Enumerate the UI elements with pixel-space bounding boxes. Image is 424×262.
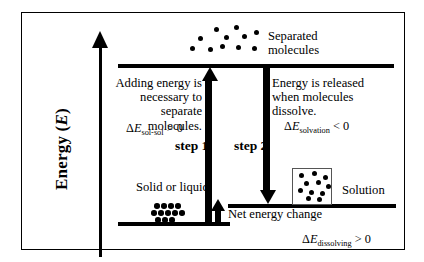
relation: > 0 xyxy=(352,232,371,246)
relation: < 0 xyxy=(330,119,349,133)
energy-released-paragraph: Energy is released when molecules dissol… xyxy=(272,76,380,119)
subscript: dissolving xyxy=(317,239,351,248)
molecule-dot xyxy=(190,46,195,51)
molecule-dot xyxy=(312,171,317,176)
relation: > 0 xyxy=(164,121,183,135)
molecule-dot xyxy=(306,196,311,201)
molecule-dot xyxy=(316,180,321,185)
step-1-caption: step 1 xyxy=(175,138,208,154)
solution-label: Solution xyxy=(342,183,385,197)
molecule-dot xyxy=(220,44,225,49)
molecule-dot xyxy=(214,27,219,32)
step-2-arrow-head-icon xyxy=(260,190,276,204)
molecule-dot xyxy=(320,191,325,196)
separated-molecules-label: Separated molecules xyxy=(268,29,319,57)
axis-label-symbol: E xyxy=(52,114,71,126)
delta-e-dissolving-equation: ΔEdissolving > 0 xyxy=(302,232,371,248)
molecule-dot xyxy=(169,217,175,223)
molecule-dot xyxy=(323,175,328,180)
molecule-dot xyxy=(161,203,167,209)
delta-symbol: Δ xyxy=(126,121,134,135)
delta-symbol: Δ xyxy=(302,232,310,246)
solution-dots-box xyxy=(292,168,332,205)
net-energy-arrow-shaft xyxy=(215,211,221,225)
molecule-dot xyxy=(198,36,203,41)
molecule-dot xyxy=(154,203,160,209)
molecule-dot xyxy=(172,210,178,216)
molecule-dot xyxy=(299,173,304,178)
molecule-dot xyxy=(242,34,247,39)
solid-or-liquid-label: Solid or liquid xyxy=(136,180,209,194)
step-1-arrow-head-icon xyxy=(202,67,218,81)
step-2-caption: step 2 xyxy=(234,138,267,154)
molecule-dot xyxy=(234,25,239,30)
delta-symbol: Δ xyxy=(284,119,292,133)
molecule-dot xyxy=(224,35,229,40)
delta-e-solvation-equation: ΔEsolvation < 0 xyxy=(284,119,349,135)
net-energy-change-label: Net energy change xyxy=(228,207,322,221)
molecule-dot xyxy=(155,217,161,223)
separated-label-line2: molecules xyxy=(268,43,319,57)
molecule-dot xyxy=(309,190,314,195)
molecule-dot xyxy=(151,210,157,216)
molecule-dot xyxy=(208,47,213,52)
diagram-frame: Energy (E) Separated molecules step 1 st… xyxy=(21,12,405,250)
molecule-dot xyxy=(304,181,309,186)
subscript: sol-sol xyxy=(141,128,163,137)
energy-diagram-figure: Energy (E) Separated molecules step 1 st… xyxy=(0,0,424,262)
molecule-dot xyxy=(175,203,181,209)
molecule-dot xyxy=(298,188,303,193)
molecule-dot xyxy=(165,210,171,216)
molecule-dot xyxy=(317,197,322,202)
energy-axis-line xyxy=(99,45,102,257)
molecule-dot xyxy=(326,184,331,189)
energy-axis-label: Energy (E) xyxy=(52,89,72,209)
molecule-dot xyxy=(254,30,259,35)
delta-e-sol-sol-equation: ΔEsol-sol > 0 xyxy=(126,121,183,137)
subscript: solvation xyxy=(299,126,329,135)
net-energy-arrow-head-icon xyxy=(211,199,225,211)
molecule-dot xyxy=(158,210,164,216)
separated-molecules-level-line xyxy=(118,64,394,68)
separated-label-line1: Separated xyxy=(268,29,318,43)
solid-lattice-dots xyxy=(150,203,184,225)
molecule-dot xyxy=(179,210,185,216)
molecule-dot xyxy=(252,46,257,51)
separated-molecules-dots xyxy=(190,25,268,59)
axis-label-text: Energy ( xyxy=(52,126,71,190)
molecule-dot xyxy=(162,217,168,223)
molecule-dot xyxy=(168,203,174,209)
molecule-dot xyxy=(236,45,241,50)
step-2-arrow-shaft xyxy=(263,66,270,190)
axis-label-close: ) xyxy=(52,108,71,114)
